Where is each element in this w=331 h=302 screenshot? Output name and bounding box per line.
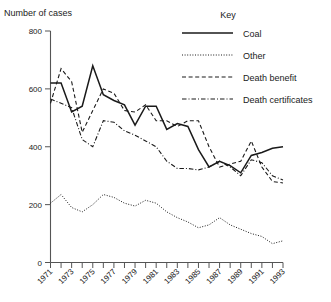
chart-figure: Number of cases Key CoalOtherDeath benef…	[0, 0, 331, 302]
y-tick-label: 800	[29, 27, 43, 36]
y-tick-label: 200	[29, 201, 43, 210]
y-tick-label: 600	[29, 85, 43, 94]
legend-label-coal: Coal	[243, 29, 262, 39]
legend-label-death-certificates: Death certificates	[243, 95, 313, 105]
line-chart: Number of cases Key CoalOtherDeath benef…	[0, 0, 331, 302]
legend-label-other: Other	[243, 51, 266, 61]
y-tick-label: 0	[38, 259, 43, 268]
legend-title: Key	[220, 10, 236, 20]
y-axis-title: Number of cases	[4, 8, 73, 18]
y-tick-label: 400	[29, 143, 43, 152]
legend-label-death-benefit: Death benefit	[243, 73, 297, 83]
chart-background	[0, 0, 331, 302]
